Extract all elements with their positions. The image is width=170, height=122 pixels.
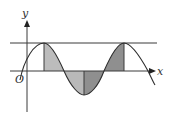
- sine-diagram: y x O: [0, 0, 170, 122]
- y-axis-arrow-icon: [24, 20, 30, 27]
- shaded-region-4: [104, 43, 124, 71]
- y-axis-label: y: [21, 7, 29, 20]
- x-axis-arrow-icon: [149, 68, 156, 74]
- shaded-region-2: [64, 71, 84, 95]
- shaded-region-1: [44, 43, 64, 71]
- x-axis-label: x: [157, 65, 164, 78]
- shaded-region-3: [84, 71, 104, 95]
- origin-label: O: [15, 73, 24, 86]
